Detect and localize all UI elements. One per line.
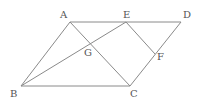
label-point-D: D bbox=[183, 9, 191, 20]
label-point-A: A bbox=[59, 9, 68, 20]
label-point-F: F bbox=[157, 51, 164, 62]
label-point-E: E bbox=[123, 9, 130, 20]
segment-CD bbox=[130, 22, 181, 86]
label-point-C: C bbox=[130, 88, 138, 99]
segment-EF bbox=[126, 22, 155, 54]
diagram-svg: A E D B C G F bbox=[0, 0, 197, 100]
segment-AC bbox=[70, 22, 130, 86]
segment-BE bbox=[21, 22, 126, 86]
geometry-diagram: A E D B C G F bbox=[0, 0, 197, 100]
label-point-B: B bbox=[10, 88, 17, 99]
segment-AB bbox=[21, 22, 70, 86]
label-point-G: G bbox=[84, 47, 92, 58]
